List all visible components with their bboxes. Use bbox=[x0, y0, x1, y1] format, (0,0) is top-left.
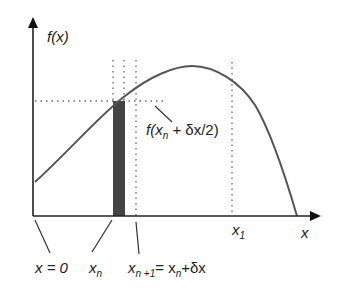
midpoint-value-label: f(xn + δx/2) bbox=[146, 121, 219, 141]
function-curve bbox=[35, 66, 297, 216]
y-axis-label: f(x) bbox=[47, 28, 69, 45]
midpoint-strip bbox=[113, 101, 125, 216]
y-axis-arrow-icon bbox=[28, 17, 38, 28]
x-axis-label: x bbox=[300, 224, 309, 241]
midpoint-rule-diagram: f(x) x x = 0 xn xn +1= xn+δx x1 f(xn + δ… bbox=[0, 0, 341, 295]
x-axis-arrow-icon bbox=[310, 211, 321, 221]
x-1-label: x1 bbox=[231, 221, 245, 241]
guide-lines bbox=[35, 60, 232, 216]
x-zero-label: x = 0 bbox=[34, 259, 69, 276]
x-n-label: xn bbox=[88, 259, 103, 279]
x-n-plus-1-label: xn +1= xn+δx bbox=[127, 259, 206, 279]
